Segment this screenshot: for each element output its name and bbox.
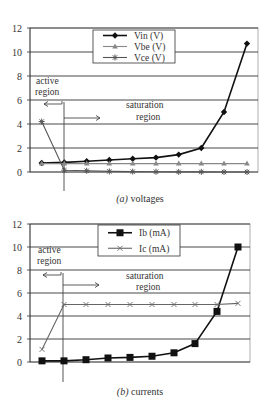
series-vce (39, 119, 250, 175)
y-tick-label: 12 (12, 219, 22, 230)
active-region-label: active (36, 76, 59, 86)
diamond-marker-icon (153, 154, 159, 160)
series-lines (39, 244, 242, 365)
y-tick-label: 6 (17, 288, 22, 299)
right-arrow-icon (64, 116, 100, 121)
left-arrow-icon (44, 102, 62, 107)
asterisk-marker-icon (221, 169, 227, 175)
legend-label: Vin (V) (134, 31, 163, 42)
active-region-label: active (38, 245, 61, 255)
saturation-region-label: region (136, 282, 161, 292)
y-tick-label: 10 (12, 242, 22, 253)
square-marker-icon (127, 354, 134, 361)
legend-label: Ib (mA) (139, 228, 170, 239)
x-marker-icon (40, 347, 45, 352)
legend: Ib (mA)Ic (mA) (98, 225, 180, 256)
square-marker-icon (214, 308, 221, 315)
legend-label: Vce (V) (134, 53, 165, 64)
y-axis-ticks: 024681012 (12, 23, 22, 178)
series-ib (39, 244, 242, 365)
y-tick-label: 4 (17, 119, 22, 130)
voltages-chart: 024681012 activeregionsaturationregion V… (12, 23, 258, 206)
currents-chart: 024681012 activeregionsaturationregion I… (12, 219, 250, 399)
asterisk-marker-icon (39, 119, 45, 125)
y-tick-label: 4 (17, 311, 22, 322)
active-region-label: region (35, 87, 60, 97)
transistor-charts: 024681012 activeregionsaturationregion V… (0, 0, 280, 413)
saturation-region-label: saturation (126, 271, 164, 281)
y-tick-label: 8 (17, 265, 22, 276)
square-marker-icon (117, 229, 124, 236)
asterisk-marker-icon (61, 167, 67, 173)
asterisk-marker-icon (176, 169, 182, 175)
chart-caption: (a) voltages (116, 193, 164, 205)
y-tick-label: 12 (12, 23, 22, 34)
square-marker-icon (171, 349, 178, 356)
chart-caption: (b) currents (117, 386, 163, 398)
square-marker-icon (235, 244, 242, 251)
diamond-marker-icon (244, 40, 250, 46)
y-tick-label: 8 (17, 71, 22, 82)
asterisk-marker-icon (130, 169, 136, 175)
asterisk-marker-icon (198, 169, 204, 175)
square-marker-icon (105, 354, 112, 361)
y-tick-label: 2 (17, 143, 22, 154)
asterisk-marker-icon (112, 55, 118, 61)
saturation-region-label: saturation (126, 100, 164, 110)
asterisk-marker-icon (106, 168, 112, 174)
diamond-marker-icon (176, 151, 182, 157)
left-arrow-icon (43, 273, 61, 278)
square-marker-icon (149, 353, 156, 360)
asterisk-marker-icon (84, 168, 90, 174)
asterisk-marker-icon (244, 169, 250, 175)
square-marker-icon (192, 340, 199, 347)
legend-label: Ic (mA) (139, 244, 169, 255)
y-tick-label: 2 (17, 334, 22, 345)
legend: Vin (V)Vbe (V)Vce (V) (93, 30, 175, 64)
y-tick-label: 6 (17, 95, 22, 106)
y-tick-label: 0 (17, 357, 22, 368)
saturation-region-label: region (136, 112, 161, 122)
legend-label: Vbe (V) (134, 42, 165, 53)
square-marker-icon (61, 357, 68, 364)
region-annotations: activeregionsaturationregion (35, 76, 164, 191)
asterisk-marker-icon (153, 169, 159, 175)
square-marker-icon (39, 357, 46, 364)
y-tick-label: 10 (12, 47, 22, 58)
active-region-label: region (37, 256, 62, 266)
series-ic (40, 301, 241, 352)
square-marker-icon (83, 356, 90, 363)
y-tick-label: 0 (17, 167, 22, 178)
y-axis-ticks: 024681012 (12, 219, 22, 368)
right-arrow-icon (63, 283, 99, 288)
